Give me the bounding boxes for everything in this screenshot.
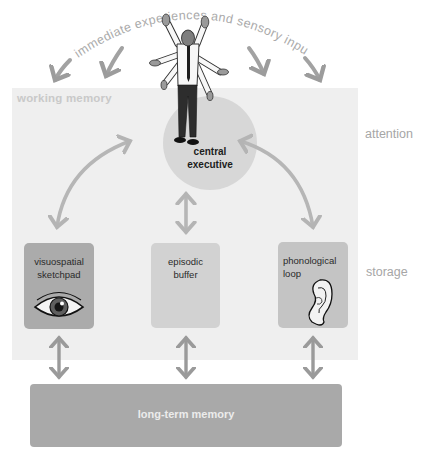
central-executive-line1: central [163, 145, 257, 158]
attention-label: attention [365, 127, 413, 141]
sensory-arrow-icon [249, 48, 264, 74]
arc-text-path: immediate experiences and sensory input [0, 0, 311, 60]
ear-icon [309, 280, 332, 325]
storage-label: storage [366, 265, 408, 279]
ce-to-visuospatial-arrow-icon [57, 141, 130, 227]
working-memory-label: working memory [17, 92, 112, 104]
sensory-input-arc-text: immediate experiences and sensory input [0, 0, 311, 60]
long-term-memory-label: long-term memory [30, 408, 342, 420]
central-executive-line2: executive [163, 158, 257, 171]
central-executive-label: central executive [163, 145, 257, 171]
multi-armed-person-icon [150, 14, 229, 145]
sensory-arrow-icon [106, 48, 122, 76]
sensory-arrow-icon [305, 58, 320, 80]
eye-icon [35, 293, 83, 317]
diagram-graphics: immediate experiences and sensory input [0, 0, 429, 456]
sensory-arrow-icon [55, 60, 70, 80]
